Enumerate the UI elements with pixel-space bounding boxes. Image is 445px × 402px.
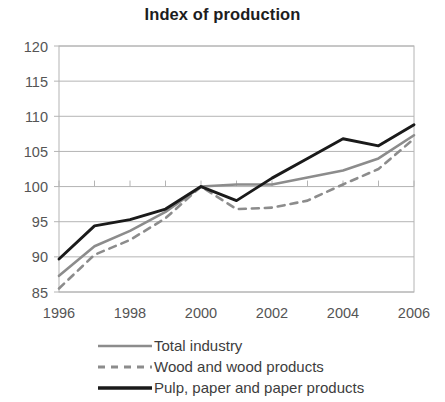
- chart-legend: Total industry Wood and wood products Pu…: [0, 334, 445, 402]
- x-axis-tick-label: 1996: [43, 305, 75, 321]
- chart-container: Index of production 85909510010511011512…: [0, 0, 445, 402]
- legend-swatch-dashed-gray-icon: [98, 361, 152, 373]
- legend-item-wood-and-wood-products: Wood and wood products: [98, 356, 324, 377]
- series-line-0: [59, 135, 414, 276]
- series-line-1: [59, 139, 414, 289]
- y-axis-tick-label: 115: [25, 74, 48, 90]
- y-axis-tick-label: 105: [24, 144, 48, 160]
- legend-label-total-industry: Total industry: [154, 337, 242, 354]
- x-axis-tick-label: 2000: [185, 305, 217, 321]
- y-axis-tick-label: 110: [25, 109, 48, 125]
- legend-swatch-solid-gray-icon: [98, 340, 152, 352]
- y-axis-tick-label: 90: [32, 249, 48, 265]
- legend-label-pulp-paper-and-paper-products: Pulp, paper and paper products: [154, 379, 364, 396]
- legend-swatch-solid-black-icon: [98, 382, 152, 394]
- x-axis-tick-label: 2004: [327, 305, 359, 321]
- y-axis-tick-label: 95: [32, 214, 48, 230]
- legend-item-pulp-paper-and-paper-products: Pulp, paper and paper products: [98, 377, 364, 398]
- y-axis-tick-label: 100: [24, 179, 48, 195]
- legend-label-wood-and-wood-products: Wood and wood products: [154, 358, 324, 375]
- y-axis-tick-label: 85: [32, 285, 48, 301]
- x-axis-tick-label: 1998: [114, 305, 146, 321]
- plot-frame: [59, 46, 414, 292]
- y-axis-tick-label: 120: [24, 39, 48, 55]
- x-axis-tick-label: 2006: [398, 305, 430, 321]
- legend-item-total-industry: Total industry: [98, 335, 242, 356]
- x-axis-tick-label: 2002: [256, 305, 288, 321]
